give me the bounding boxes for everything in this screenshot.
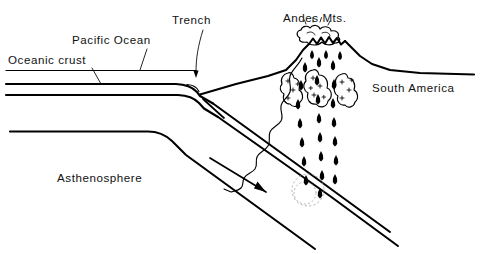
- subduction-zone-diagram: Oceanic crust Pacific Ocean Trench Andes…: [0, 0, 480, 254]
- label-oceanic-crust: Oceanic crust: [8, 53, 86, 66]
- label-pacific-ocean: Pacific Ocean: [72, 33, 151, 46]
- label-south-america: South America: [372, 81, 455, 94]
- label-andes-mts: Andes Mts.: [283, 11, 347, 24]
- label-asthenosphere: Asthenosphere: [57, 171, 142, 184]
- label-trench: Trench: [172, 13, 211, 26]
- cross-section-canvas: Oceanic crust Pacific Ocean Trench Andes…: [0, 0, 480, 254]
